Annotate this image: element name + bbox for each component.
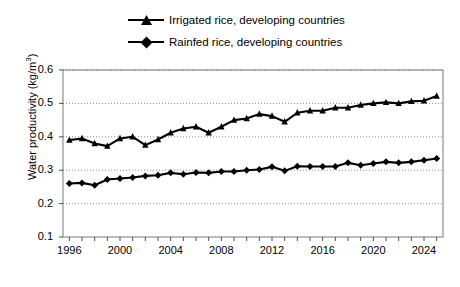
data-point-marker	[307, 163, 314, 170]
x-tick-label: 2000	[100, 245, 140, 256]
data-point-marker	[256, 166, 263, 173]
data-point-marker	[129, 174, 136, 181]
chart-figure: Irrigated rice, developing countries Rai…	[0, 0, 460, 287]
x-tick-label: 2012	[252, 245, 292, 256]
data-point-marker	[117, 175, 124, 182]
y-tick-label: 0.5	[27, 97, 53, 108]
data-point-marker	[332, 163, 339, 170]
y-tick-label: 0.2	[27, 198, 53, 209]
series-line-2	[69, 159, 436, 186]
series-line-1	[69, 96, 436, 146]
data-point-marker	[218, 168, 225, 175]
data-point-marker	[319, 163, 326, 170]
data-point-marker	[345, 159, 352, 166]
data-point-marker	[281, 167, 288, 174]
y-tick-label: 0.1	[27, 231, 53, 242]
data-point-marker	[357, 162, 364, 169]
y-tick-label: 0.6	[27, 64, 53, 75]
y-tick-label: 0.3	[27, 164, 53, 175]
data-point-marker	[421, 157, 428, 164]
y-tick-label: 0.4	[27, 131, 53, 142]
data-point-marker	[269, 163, 276, 170]
data-point-marker	[433, 92, 439, 98]
data-point-marker	[395, 159, 402, 166]
plot-frame	[63, 70, 443, 237]
data-point-marker	[91, 182, 98, 189]
data-point-marker	[243, 167, 250, 174]
data-point-marker	[433, 155, 440, 162]
data-point-marker	[104, 176, 111, 183]
x-tick-label: 2024	[404, 245, 444, 256]
x-tick-label: 2008	[201, 245, 241, 256]
data-point-marker	[205, 169, 212, 176]
x-tick-label: 1996	[49, 245, 89, 256]
data-point-marker	[294, 163, 301, 170]
data-point-marker	[155, 172, 162, 179]
data-point-marker	[231, 168, 238, 175]
data-point-marker	[408, 158, 415, 165]
x-tick-label: 2020	[353, 245, 393, 256]
x-tick-label: 2004	[151, 245, 191, 256]
x-tick-label: 2016	[303, 245, 343, 256]
data-point-marker	[66, 180, 73, 187]
data-point-marker	[142, 172, 149, 179]
data-point-marker	[79, 179, 86, 186]
data-point-marker	[383, 158, 390, 165]
data-point-marker	[370, 160, 377, 167]
data-point-marker	[180, 171, 187, 178]
